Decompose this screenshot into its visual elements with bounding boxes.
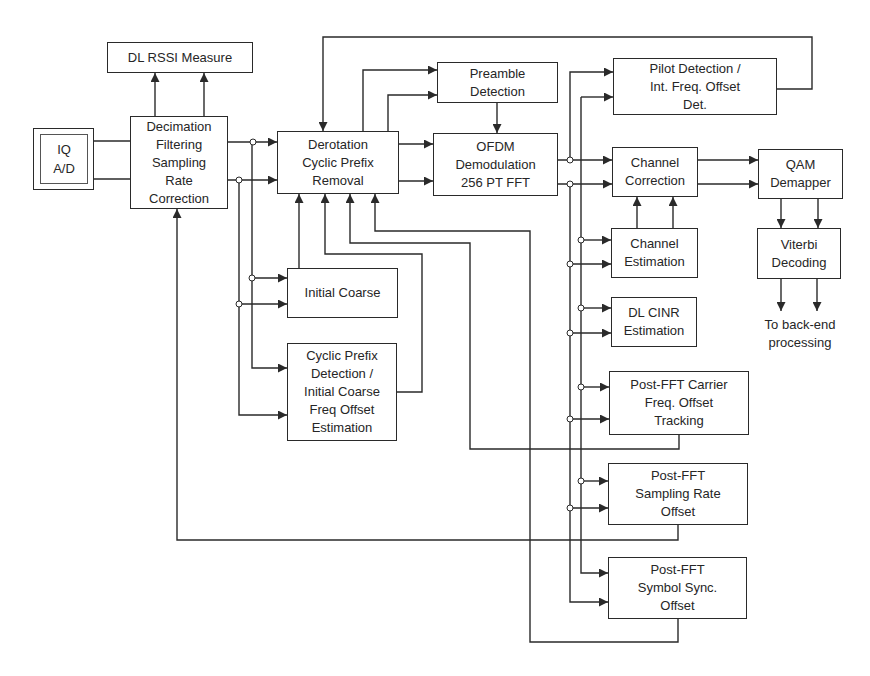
channel-estimation-block: Channel Estimation (611, 228, 698, 278)
decimation-block: Decimation Filtering Sampling Rate Corre… (130, 116, 228, 209)
pilot-detection-block: Pilot Detection / Int. Freq. Offset Det. (613, 58, 777, 115)
iq-ad-block: IQ A/D (33, 128, 94, 190)
iq-ad-label: IQ A/D (40, 134, 88, 184)
viterbi-decoding-block: Viterbi Decoding (757, 228, 841, 279)
ofdm-demodulation-block: OFDM Demodulation 256 PT FFT (433, 133, 558, 196)
derotation-block: Derotation Cyclic Prefix Removal (277, 131, 399, 194)
cinr-estimation-block: DL CINR Estimation (611, 297, 697, 347)
backend-output-note: To back-end processing (745, 316, 855, 352)
carrier-offset-tracking-block: Post-FFT Carrier Freq. Offset Tracking (609, 371, 749, 435)
symbol-sync-offset-block: Post-FFT Symbol Sync. Offset (608, 557, 747, 619)
cyclic-prefix-detection-block: Cyclic Prefix Detection / Initial Coarse… (287, 343, 397, 441)
initial-coarse-block: Initial Coarse (287, 268, 398, 318)
rssi-measure-block: DL RSSI Measure (107, 42, 253, 73)
qam-demapper-block: QAM Demapper (758, 149, 843, 199)
sampling-rate-offset-block: Post-FFT Sampling Rate Offset (608, 463, 748, 525)
channel-correction-block: Channel Correction (612, 147, 698, 197)
preamble-detection-block: Preamble Detection (437, 62, 558, 103)
